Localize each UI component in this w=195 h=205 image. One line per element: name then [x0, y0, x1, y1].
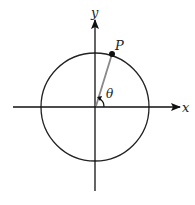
x-axis-label: x — [182, 100, 190, 115]
point-label: P — [114, 38, 124, 53]
angle-label: θ — [106, 87, 114, 101]
unit-circle-diagram: y x P θ — [0, 0, 195, 205]
y-axis-label: y — [90, 5, 99, 20]
